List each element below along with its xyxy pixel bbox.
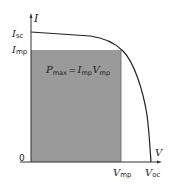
imp-label: Imp — [11, 44, 28, 56]
max-power-rectangle — [31, 50, 121, 162]
y-axis-label: I — [33, 12, 39, 25]
iv-curve-diagram: I V 0 Isc Imp Vmp Voc Pmax=ImpVmp — [0, 0, 177, 184]
y-axis-arrow-icon — [30, 13, 33, 18]
x-axis-arrow-icon — [157, 161, 162, 164]
origin-label: 0 — [19, 153, 25, 163]
x-axis-label: V — [155, 147, 164, 158]
voc-label: Voc — [145, 167, 161, 179]
isc-label: Isc — [11, 28, 24, 40]
vmp-label: Vmp — [113, 167, 132, 179]
